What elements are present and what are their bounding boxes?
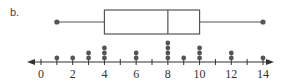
- data-dot: [86, 56, 91, 61]
- data-dot: [165, 51, 170, 56]
- data-dot: [229, 56, 234, 61]
- data-dot: [181, 56, 186, 61]
- right-arrow: [266, 59, 274, 65]
- box-plot: [54, 10, 265, 34]
- left-arrow: [27, 59, 35, 65]
- data-dot: [165, 46, 170, 51]
- tick-label: 0: [38, 67, 44, 81]
- data-dot: [54, 56, 59, 61]
- data-dot: [102, 46, 107, 51]
- tick-label: 12: [225, 67, 237, 81]
- number-line: 02468101214: [27, 59, 274, 81]
- tick-label: 2: [70, 67, 76, 81]
- tick-label: 14: [257, 67, 269, 81]
- data-dot: [165, 41, 170, 46]
- dot-plot: [54, 41, 265, 61]
- data-dot: [197, 46, 202, 51]
- max-point: [260, 19, 265, 24]
- data-dot: [261, 56, 266, 61]
- data-dot: [229, 51, 234, 56]
- tick-label: 6: [133, 67, 139, 81]
- data-dot: [102, 56, 107, 61]
- data-dot: [134, 51, 139, 56]
- data-dot: [86, 51, 91, 56]
- iqr-box: [104, 10, 199, 34]
- data-dot: [134, 56, 139, 61]
- data-dot: [102, 51, 107, 56]
- data-dot: [197, 56, 202, 61]
- data-dot: [70, 56, 75, 61]
- data-dot: [165, 56, 170, 61]
- tick-label: 10: [194, 67, 206, 81]
- tick-label: 4: [101, 67, 107, 81]
- tick-label: 8: [165, 67, 171, 81]
- box-and-dot-plot: 02468101214: [0, 0, 295, 82]
- min-point: [54, 19, 59, 24]
- data-dot: [197, 51, 202, 56]
